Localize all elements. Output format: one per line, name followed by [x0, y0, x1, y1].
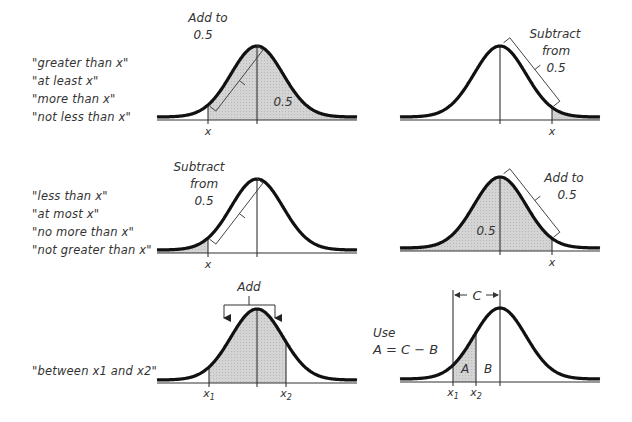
annotation-add-to: Add to [187, 11, 227, 25]
x2-label: x2 [469, 386, 482, 401]
label-between: "between x1 and x2" [32, 362, 157, 380]
label-not-less-than: "not less than x" [32, 108, 131, 126]
label-at-most: "at most x" [32, 205, 152, 223]
x-label: x [548, 125, 556, 138]
row2-labels: "less than x" "at most x" "no more than … [32, 187, 152, 259]
annotation-subtract: Subtract [529, 27, 581, 41]
annotation-from: from [190, 177, 218, 191]
bracket-tick [535, 196, 540, 200]
annotation-0-5: 0.5 [546, 61, 565, 75]
x1-label: x1 [202, 387, 215, 402]
annotation-0-5: 0.5 [557, 188, 576, 202]
x-label: x [548, 256, 556, 269]
annotation-add-to: Add to [543, 171, 583, 185]
bracket-tick [239, 214, 245, 218]
bracket-tick [535, 65, 540, 69]
annotation-0-5: 0.5 [193, 28, 212, 42]
x-label: x [204, 125, 212, 138]
area-label-0-5: 0.5 [476, 224, 495, 238]
annotation-add: Add [236, 280, 261, 294]
row3-labels: "between x1 and x2" [32, 362, 157, 380]
annotation-subtract: Subtract [173, 160, 225, 174]
span-label-c: C [472, 288, 482, 303]
x2-label: x2 [279, 387, 292, 402]
annotation-from: from [542, 44, 570, 58]
label-less-than: "less than x" [32, 187, 152, 205]
region-label-a: A [460, 362, 469, 376]
x-label: x [204, 258, 212, 271]
arrow-right-icon [493, 292, 499, 298]
shaded-area [209, 309, 286, 383]
label-at-least: "at least x" [32, 72, 131, 90]
x1-label: x1 [446, 386, 459, 401]
row1-labels: "greater than x" "at least x" "more than… [32, 54, 131, 126]
label-no-more-than: "no more than x" [32, 223, 152, 241]
label-not-greater-than: "not greater than x" [32, 241, 152, 259]
annotation-use: Use [373, 326, 395, 340]
label-more-than: "more than x" [32, 90, 131, 108]
region-label-b: B [484, 362, 492, 376]
label-greater-than: "greater than x" [32, 54, 131, 72]
arrow-left-icon [454, 292, 460, 298]
annotation-formula: A = C − B [372, 342, 438, 357]
annotation-0-5: 0.5 [194, 194, 213, 208]
shaded-area [400, 177, 552, 251]
area-label-0-5: 0.5 [273, 95, 292, 109]
